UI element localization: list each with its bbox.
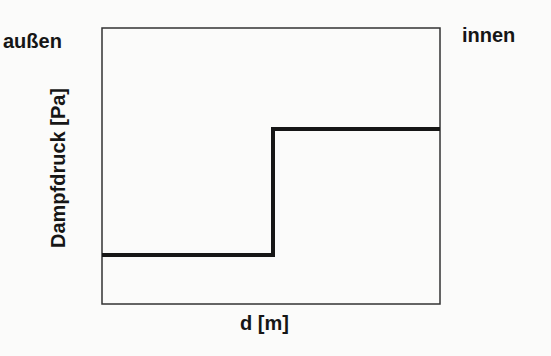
- plot-area: [0, 0, 551, 356]
- vapour-pressure-step-line: [102, 129, 440, 255]
